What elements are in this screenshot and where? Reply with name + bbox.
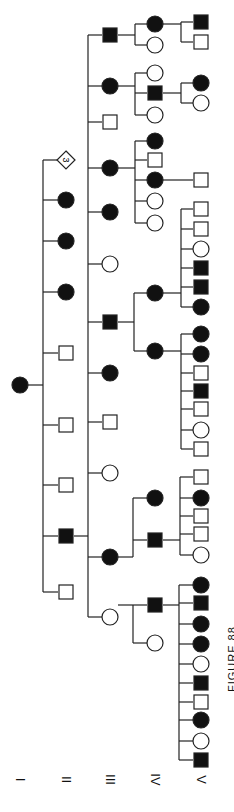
affected-female-symbol xyxy=(147,16,163,32)
unaffected-male-symbol xyxy=(59,585,73,599)
generation-label: I xyxy=(13,765,28,795)
affected-female-symbol xyxy=(102,204,118,220)
generation-label: V xyxy=(194,765,209,795)
unaffected-female-symbol xyxy=(102,256,118,272)
unaffected-male-symbol xyxy=(148,153,162,167)
affected-female-symbol xyxy=(193,490,209,506)
affected-female-symbol xyxy=(193,326,209,342)
affected-female-symbol xyxy=(193,75,209,91)
affected-female-symbol xyxy=(193,346,209,362)
unaffected-male-symbol xyxy=(194,35,208,49)
unaffected-male-symbol xyxy=(194,470,208,484)
affected-male-symbol xyxy=(194,676,208,690)
unaffected-female-symbol xyxy=(193,547,209,563)
unaffected-female-symbol xyxy=(102,465,118,481)
unaffected-female-symbol xyxy=(147,215,163,231)
unaffected-female-symbol xyxy=(193,422,209,438)
affected-male-symbol xyxy=(148,598,162,612)
pedigree-lines xyxy=(28,22,193,760)
unaffected-female-symbol xyxy=(193,95,209,111)
unaffected-male-symbol xyxy=(194,173,208,187)
affected-female-symbol xyxy=(147,133,163,149)
affected-female-symbol xyxy=(193,616,209,632)
unaffected-female-symbol xyxy=(147,37,163,53)
affected-female-symbol xyxy=(58,233,74,249)
affected-female-symbol xyxy=(102,549,118,565)
affected-female-symbol xyxy=(147,343,163,359)
affected-male-symbol xyxy=(194,280,208,294)
generation-label: III xyxy=(103,765,118,795)
unaffected-female-symbol xyxy=(193,656,209,672)
affected-male-symbol xyxy=(103,28,117,42)
affected-male-symbol xyxy=(194,596,208,610)
figure-caption: FIGURE 88 xyxy=(226,626,234,692)
affected-male-symbol xyxy=(59,529,73,543)
affected-female-symbol xyxy=(147,172,163,188)
sibling-count-label: 3 xyxy=(61,157,71,162)
unaffected-male-symbol xyxy=(59,418,73,432)
affected-female-symbol xyxy=(58,192,74,208)
unaffected-male-symbol xyxy=(59,346,73,360)
affected-female-symbol xyxy=(102,78,118,94)
affected-female-symbol xyxy=(193,636,209,652)
unaffected-male-symbol xyxy=(59,478,73,492)
affected-male-symbol xyxy=(103,315,117,329)
unaffected-male-symbol xyxy=(103,115,117,129)
unaffected-female-symbol xyxy=(193,241,209,257)
unaffected-male-symbol xyxy=(194,442,208,456)
unaffected-male-symbol xyxy=(194,366,208,380)
affected-male-symbol xyxy=(194,15,208,29)
unaffected-male-symbol xyxy=(194,509,208,523)
affected-male-symbol xyxy=(148,533,162,547)
affected-female-symbol xyxy=(193,299,209,315)
affected-female-symbol xyxy=(102,160,118,176)
generation-label: II xyxy=(59,765,74,795)
affected-male-symbol xyxy=(194,384,208,398)
unaffected-female-symbol xyxy=(193,733,209,749)
unaffected-female-symbol xyxy=(147,107,163,123)
affected-male-symbol xyxy=(194,261,208,275)
unaffected-female-symbol xyxy=(147,193,163,209)
affected-female-symbol xyxy=(147,490,163,506)
pedigree-chart: 3 xyxy=(0,0,234,812)
affected-female-symbol xyxy=(102,365,118,381)
unaffected-male-symbol xyxy=(194,695,208,709)
affected-female-symbol xyxy=(147,285,163,301)
unaffected-male-symbol xyxy=(194,402,208,416)
unaffected-female-symbol xyxy=(147,635,163,651)
unaffected-male-symbol xyxy=(103,415,117,429)
unaffected-male-symbol xyxy=(194,527,208,541)
affected-female-symbol xyxy=(193,577,209,593)
unaffected-male-symbol xyxy=(194,222,208,236)
unaffected-female-symbol xyxy=(102,609,118,625)
affected-female-symbol xyxy=(193,712,209,728)
unaffected-female-symbol xyxy=(147,65,163,81)
affected-male-symbol xyxy=(148,86,162,100)
unaffected-male-symbol xyxy=(194,202,208,216)
affected-female-symbol xyxy=(58,284,74,300)
affected-female-symbol xyxy=(12,377,28,393)
generation-label: IV xyxy=(148,765,163,795)
